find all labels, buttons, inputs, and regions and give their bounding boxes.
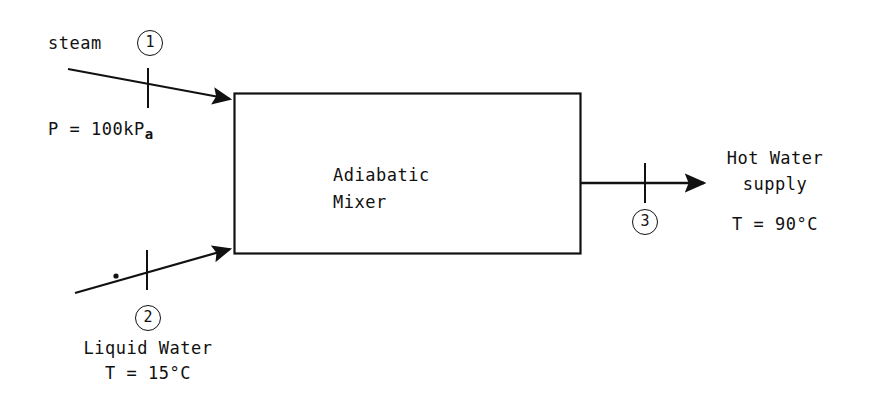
stream-2-marker: 2 bbox=[135, 305, 161, 331]
stream-2-temperature-label: T = 15°C bbox=[48, 360, 248, 386]
mixer-name-line2: Mixer bbox=[333, 189, 387, 216]
stream-3-name-line2: supply bbox=[695, 171, 855, 197]
mixer-name-line1: Adiabatic bbox=[333, 162, 430, 189]
pressure-value: P = 100kP bbox=[48, 119, 145, 139]
stream-3-name-line1: Hot Water bbox=[695, 145, 855, 171]
stream-2-dot bbox=[113, 273, 118, 278]
stream-2-name-label: Liquid Water bbox=[48, 335, 248, 361]
stream-1-marker: 1 bbox=[137, 30, 163, 56]
pressure-subscript: a bbox=[145, 126, 153, 142]
stream-3-marker: 3 bbox=[632, 209, 658, 235]
stream-1-name-label: steam bbox=[48, 30, 102, 56]
adiabatic-mixer-diagram: steam 1 P = 100kPa Adiabatic Mixer 2 Liq… bbox=[0, 0, 889, 398]
stream-3-temperature-label: T = 90°C bbox=[695, 211, 855, 237]
stream-1-pressure-label: P = 100kPa bbox=[48, 116, 153, 147]
stream-2-arrow bbox=[75, 249, 230, 293]
